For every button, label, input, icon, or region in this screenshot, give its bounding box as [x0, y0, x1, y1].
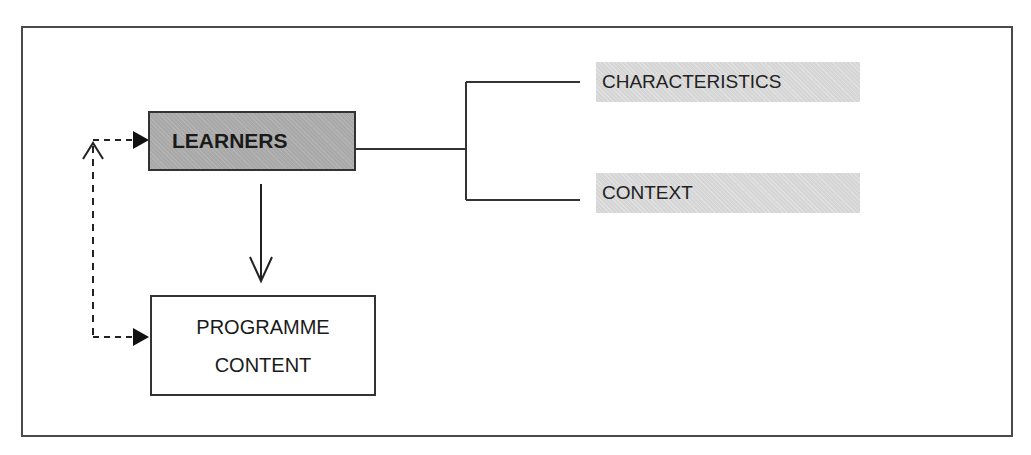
context-node: CONTEXT — [596, 173, 860, 213]
characteristics-label: CHARACTERISTICS — [602, 71, 781, 93]
dashed-feedback-arrow — [83, 131, 149, 346]
characteristics-node: CHARACTERISTICS — [596, 62, 860, 102]
programme-label-line2: CONTENT — [215, 346, 312, 384]
arrow-down-icon — [250, 184, 272, 281]
learners-label: LEARNERS — [172, 129, 288, 153]
programme-label-line1: PROGRAMME — [196, 308, 329, 346]
programme-content-node: PROGRAMME CONTENT — [150, 295, 376, 396]
learners-node: LEARNERS — [148, 111, 356, 171]
context-label: CONTEXT — [602, 182, 693, 204]
